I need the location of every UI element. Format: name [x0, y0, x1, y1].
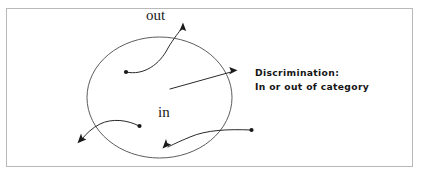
annotation-title: Discrimination:: [255, 66, 425, 80]
diagram-canvas: out in Discrimination: In or out of cate…: [0, 0, 432, 180]
label-in: in: [158, 105, 170, 120]
arrow-start-dot: [137, 124, 141, 128]
arrow-start-dot: [249, 128, 253, 132]
annotation-subtitle: In or out of category: [255, 80, 425, 94]
label-out: out: [146, 8, 165, 23]
arrow-start-dot: [124, 70, 128, 74]
annotation-block: Discrimination: In or out of category: [255, 66, 425, 94]
